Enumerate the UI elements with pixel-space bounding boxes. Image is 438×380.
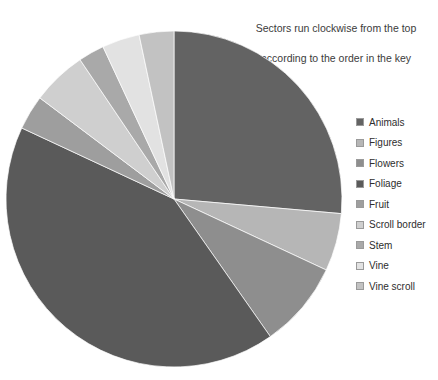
legend-swatch-icon [356,180,364,188]
legend-item-label: Vine scroll [369,281,415,292]
legend-item-label: Vine [369,260,389,271]
legend-item[interactable]: Animals [356,112,438,133]
legend-item-label: Scroll border [369,219,426,230]
legend-swatch-icon [356,221,364,229]
legend-item[interactable]: Stem [356,235,438,256]
legend-item-label: Figures [369,137,402,148]
legend-item[interactable]: Flowers [356,153,438,174]
legend-item[interactable]: Vine [356,256,438,277]
legend-swatch-icon [356,159,364,167]
pie-slice[interactable] [174,31,342,214]
legend-swatch-icon [356,262,364,270]
legend-item-label: Foliage [369,178,402,189]
chart-legend: Animals Figures Flowers Foliage Fruit Sc… [356,112,438,297]
pie-slices-group [6,31,342,367]
legend-swatch-icon [356,139,364,147]
legend-swatch-icon [356,118,364,126]
legend-item[interactable]: Fruit [356,194,438,215]
legend-swatch-icon [356,200,364,208]
legend-item-label: Stem [369,240,392,251]
legend-item[interactable]: Foliage [356,174,438,195]
legend-swatch-icon [356,282,364,290]
legend-item[interactable]: Vine scroll [356,276,438,297]
legend-item[interactable]: Figures [356,133,438,154]
legend-swatch-icon [356,241,364,249]
pie-chart-figure: Sectors run clockwise from the top accor… [0,0,438,380]
legend-item-label: Flowers [369,158,404,169]
legend-item-label: Animals [369,117,405,128]
legend-item-label: Fruit [369,199,389,210]
legend-item[interactable]: Scroll border [356,215,438,236]
